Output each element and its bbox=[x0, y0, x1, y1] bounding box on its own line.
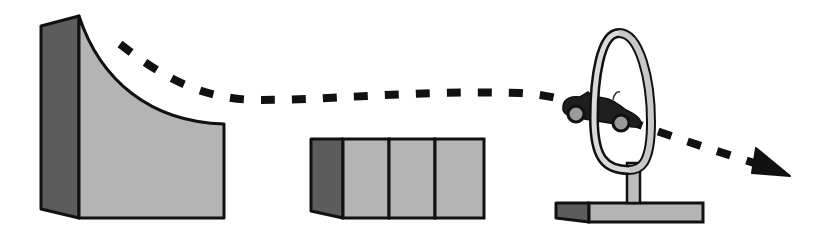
block-panel-2 bbox=[389, 139, 435, 218]
block-panel-1 bbox=[343, 139, 389, 218]
toy-car bbox=[563, 92, 641, 131]
block-side-face bbox=[311, 139, 343, 218]
car-rear-wheel bbox=[568, 106, 584, 122]
stand-base-top bbox=[589, 203, 703, 222]
ramp-front-face bbox=[79, 16, 224, 218]
car-front-wheel bbox=[613, 115, 629, 131]
car-windshield bbox=[613, 92, 620, 100]
ramp-side-face bbox=[41, 16, 79, 218]
scene-canvas bbox=[0, 0, 832, 242]
curved-ramp bbox=[41, 16, 224, 218]
diagram-stage bbox=[0, 0, 832, 242]
block-panel-3 bbox=[435, 139, 484, 218]
stand-base-side bbox=[556, 203, 589, 222]
block bbox=[311, 139, 484, 218]
trajectory-arrowhead bbox=[752, 148, 790, 176]
